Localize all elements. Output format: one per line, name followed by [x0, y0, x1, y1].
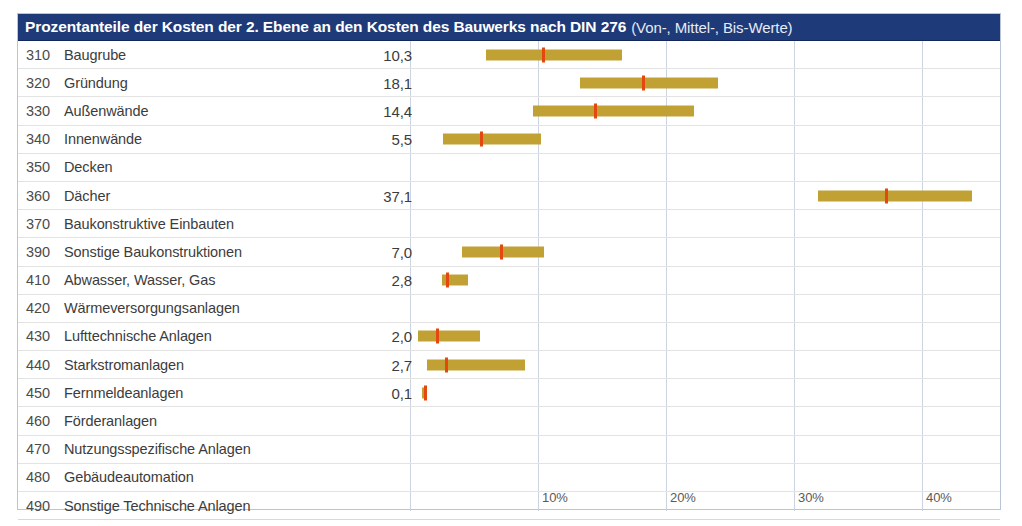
row-code: 420 — [26, 300, 50, 316]
row-code: 340 — [26, 131, 50, 147]
chart-screenshot: Prozentanteile der Kosten der 2. Ebene a… — [0, 0, 1022, 526]
row-label: Gründung — [64, 75, 128, 91]
range-bar — [443, 134, 540, 145]
row-value: 0,1 — [318, 384, 412, 401]
chart-frame: Prozentanteile der Kosten der 2. Ebene a… — [17, 13, 1001, 510]
table-row[interactable]: 420Wärmeversorgungsanlagen — [18, 295, 1000, 323]
row-label: Fernmeldeanlagen — [64, 385, 183, 401]
table-row[interactable]: 340Innenwände5,5 — [18, 126, 1000, 154]
chart-rows: 310Baugrube10,3320Gründung18,1330Außenwä… — [18, 41, 1000, 520]
row-value: 18,1 — [318, 74, 412, 91]
table-row[interactable]: 410Abwasser, Wasser, Gas2,8 — [18, 267, 1000, 295]
table-row[interactable]: 460Förderanlagen — [18, 407, 1000, 435]
table-row[interactable]: 350Decken — [18, 154, 1000, 182]
row-code: 450 — [26, 385, 50, 401]
row-code: 350 — [26, 159, 50, 175]
row-label: Sonstige Technische Anlagen — [64, 498, 250, 514]
range-bar — [462, 246, 544, 257]
range-bar — [580, 77, 718, 88]
row-label: Nutzungsspezifische Anlagen — [64, 441, 251, 457]
table-row[interactable]: 320Gründung18,1 — [18, 69, 1000, 97]
row-value: 37,1 — [318, 187, 412, 204]
row-code: 390 — [26, 244, 50, 260]
row-code: 310 — [26, 47, 50, 63]
row-label: Starkstromanlagen — [64, 357, 184, 373]
range-bar — [486, 49, 623, 60]
mean-marker — [885, 188, 888, 203]
row-label: Abwasser, Wasser, Gas — [64, 272, 215, 288]
mean-marker — [642, 75, 645, 90]
table-row[interactable]: 310Baugrube10,3 — [18, 41, 1000, 69]
table-row[interactable]: 450Fernmeldeanlagen0,1 — [18, 379, 1000, 407]
table-row[interactable]: 390Sonstige Baukonstruktionen7,0 — [18, 238, 1000, 266]
row-label: Decken — [64, 159, 113, 175]
row-label: Lufttechnische Anlagen — [64, 328, 212, 344]
mean-marker — [424, 385, 427, 400]
row-code: 440 — [26, 357, 50, 373]
row-label: Wärmeversorgungsanlagen — [64, 300, 240, 316]
table-row[interactable]: 370Baukonstruktive Einbauten — [18, 210, 1000, 238]
mean-marker — [594, 103, 597, 118]
row-label: Gebäudeautomation — [64, 469, 194, 485]
row-code: 470 — [26, 441, 50, 457]
table-row[interactable]: 490Sonstige Technische Anlagen — [18, 492, 1000, 520]
row-label: Innenwände — [64, 131, 142, 147]
row-label: Baugrube — [64, 47, 126, 63]
row-code: 360 — [26, 188, 50, 204]
page-title: Prozentanteile der Kosten der 2. Ebene a… — [25, 18, 626, 36]
table-row[interactable]: 480Gebäudeautomation — [18, 464, 1000, 492]
row-value: 5,5 — [318, 131, 412, 148]
mean-marker — [542, 47, 545, 62]
page-title-note: (Von-, Mittel-, Bis-Werte) — [631, 19, 792, 36]
row-value: 14,4 — [318, 102, 412, 119]
row-label: Außenwände — [64, 103, 148, 119]
row-value: 2,0 — [318, 328, 412, 345]
row-code: 410 — [26, 272, 50, 288]
row-code: 490 — [26, 498, 50, 514]
row-value: 2,8 — [318, 272, 412, 289]
range-bar — [818, 190, 972, 201]
range-bar — [418, 331, 481, 342]
range-bar — [427, 359, 526, 370]
mean-marker — [500, 244, 503, 259]
mean-marker — [480, 132, 483, 147]
row-value: 2,7 — [318, 356, 412, 373]
row-code: 480 — [26, 469, 50, 485]
row-label: Sonstige Baukonstruktionen — [64, 244, 242, 260]
mean-marker — [446, 273, 449, 288]
row-value: 7,0 — [318, 243, 412, 260]
row-code: 330 — [26, 103, 50, 119]
row-label: Förderanlagen — [64, 413, 157, 429]
mean-marker — [445, 357, 448, 372]
row-label: Dächer — [64, 188, 110, 204]
table-row[interactable]: 360Dächer37,1 — [18, 182, 1000, 210]
table-row[interactable]: 330Außenwände14,4 — [18, 97, 1000, 125]
mean-marker — [436, 329, 439, 344]
range-bar — [533, 105, 694, 116]
row-code: 370 — [26, 216, 50, 232]
row-label: Baukonstruktive Einbauten — [64, 216, 234, 232]
row-code: 320 — [26, 75, 50, 91]
row-value: 10,3 — [318, 46, 412, 63]
chart-title-band: Prozentanteile der Kosten der 2. Ebene a… — [18, 14, 1000, 41]
row-code: 460 — [26, 413, 50, 429]
row-code: 430 — [26, 328, 50, 344]
table-row[interactable]: 470Nutzungsspezifische Anlagen — [18, 436, 1000, 464]
table-row[interactable]: 440Starkstromanlagen2,7 — [18, 351, 1000, 379]
table-row[interactable]: 430Lufttechnische Anlagen2,0 — [18, 323, 1000, 351]
